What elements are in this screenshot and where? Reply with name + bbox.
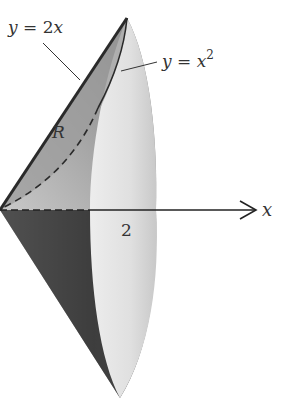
label-x-tick-2: 2 bbox=[121, 220, 132, 240]
label-region-r: R bbox=[51, 122, 65, 142]
solid-of-revolution-figure: y = 2x y = x2 R 2 x bbox=[0, 0, 298, 415]
leader-y-2x bbox=[43, 43, 80, 80]
label-y-x2: y = x2 bbox=[161, 48, 214, 71]
label-x-axis: x bbox=[262, 199, 272, 220]
label-y-2x: y = 2x bbox=[7, 17, 63, 37]
